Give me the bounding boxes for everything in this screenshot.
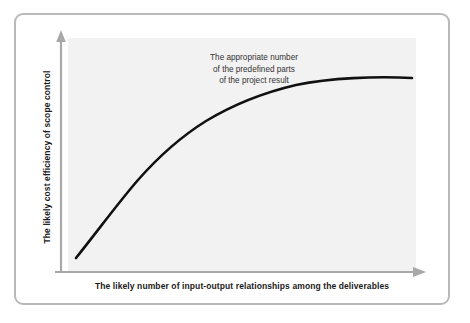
series-line-cost-efficiency: [76, 77, 412, 258]
y-axis-label: The likely cost efficiency of scope cont…: [42, 71, 52, 244]
chart-figure: The likely cost efficiency of scope cont…: [0, 0, 470, 323]
annotation-line-1: The appropriate number: [198, 52, 310, 64]
data-curve-layer: [0, 0, 470, 323]
annotation-line-2: of the predefined parts: [198, 64, 310, 76]
x-axis-label: The likely number of input-output relati…: [68, 281, 416, 291]
chart-annotation: The appropriate number of the predefined…: [198, 52, 310, 87]
annotation-line-3: of the project result: [198, 75, 310, 87]
